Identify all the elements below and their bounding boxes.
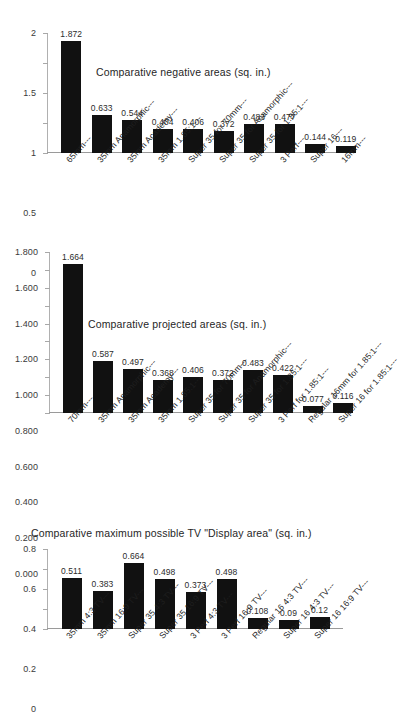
bar-value-label: 0.498 [216,567,238,577]
y-tick-label: 1.200 [15,354,38,364]
y-tick-label: 1.400 [15,319,38,329]
y-tick-label: 0.6 [23,584,36,594]
y-tick-label: 0 [31,704,36,714]
bar-value-label: 0.511 [61,566,82,576]
bar [61,41,81,153]
bar-value-label: 0.383 [92,579,114,589]
bar-value-label: 1.872 [60,29,82,39]
bar-value-label: 0.498 [154,567,176,577]
bar-group: 0.144 [300,33,331,153]
chart-title-tv-display-areas: Comparative maximum possible TV "Display… [31,527,312,539]
y-tick: 0 [43,153,48,154]
y-tick-label: 1.800 [15,247,38,257]
y-tick-label: 1.600 [15,283,38,293]
y-tick-label: 0.800 [15,426,38,436]
chart-tv-display-areas: Comparative maximum possible TV "Display… [0,502,370,716]
bar-group: 1.664 [58,252,88,413]
y-tick-label: 1.5 [23,88,36,98]
bar-value-label: 0.497 [122,357,144,367]
y-tick-label: 0.600 [15,462,38,472]
bar-value-label: 0.664 [123,551,145,561]
bar-group: 1.872 [56,33,87,153]
chart-projected-areas: Comparative projected areas (sq. in.) 0.… [0,240,370,502]
y-tick-label: 1.000 [15,390,38,400]
y-tick: 0 [43,629,48,630]
y-tick-label: 0.5 [23,208,36,218]
bar-group: 0.587 [88,252,118,413]
y-tick-label: 2 [31,28,36,38]
bar [63,264,83,413]
chart-negative-areas: Comparative negative areas (sq. in.) 00.… [0,0,370,240]
bar-group: 0.633 [87,33,118,153]
y-tick-label: 0.4 [23,624,36,634]
bar-value-label: 0.406 [182,365,204,375]
y-tick: 0.000 [45,413,50,414]
bar-value-label: 0.633 [91,103,113,113]
bar-value-label: 0.587 [92,349,114,359]
y-tick-label: 0.2 [23,664,36,674]
y-tick-label: 1 [31,148,36,158]
y-tick-label: 0.8 [23,544,36,554]
bar-value-label: 1.664 [62,252,84,262]
